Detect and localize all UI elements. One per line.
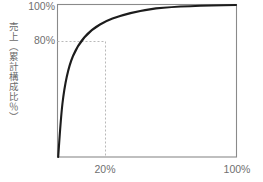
- y-tick-label-100: 100%: [21, 1, 55, 12]
- x-tick-label-20: 20%: [83, 164, 127, 175]
- plot-frame: [58, 5, 237, 158]
- chart-plot-area: [0, 0, 263, 182]
- x-tick-label-100: 100%: [213, 164, 261, 175]
- y-axis-title: 売上（累計構成比％）: [2, 22, 18, 152]
- pareto-chart: 売上（累計構成比％） 100% 80% 20% 100%: [0, 0, 263, 182]
- y-tick-label-80: 80%: [21, 35, 55, 46]
